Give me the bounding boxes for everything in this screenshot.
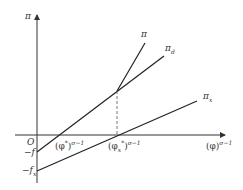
intercept-fx-label: −fx: [22, 166, 36, 177]
minus-sign: −: [24, 147, 32, 157]
tick-subscript: x: [118, 146, 121, 153]
f-symbol: f: [32, 147, 35, 157]
y-axis-label: π: [25, 12, 31, 21]
x-tick-phi-star: (φ*)σ−1: [55, 140, 84, 151]
x-axis-base: (φ): [206, 141, 219, 151]
tick-exponent: σ−1: [128, 139, 141, 146]
minus-sign: −: [22, 165, 30, 175]
pi-subscript: x: [209, 96, 212, 103]
tick-base: (φ: [108, 141, 118, 151]
x-axis-label: (φ)σ−1: [206, 140, 232, 151]
intercept-f-label: −f: [24, 148, 35, 157]
pi-d-line: [37, 56, 164, 152]
pi-subscript: d: [171, 48, 175, 55]
pi-line: [117, 43, 145, 91]
pi-line-label: π: [141, 30, 147, 39]
x-axis-exponent: σ−1: [219, 139, 232, 146]
tick-base: (φ: [55, 141, 65, 151]
f-subscript: x: [33, 170, 36, 177]
pi-x-line-label: πx: [203, 92, 212, 103]
origin-label: O: [27, 138, 34, 147]
pi-d-line-label: πd: [165, 44, 175, 55]
tick-exponent: σ−1: [71, 139, 84, 146]
x-tick-phi-x-star: (φx*)σ−1: [108, 140, 141, 153]
